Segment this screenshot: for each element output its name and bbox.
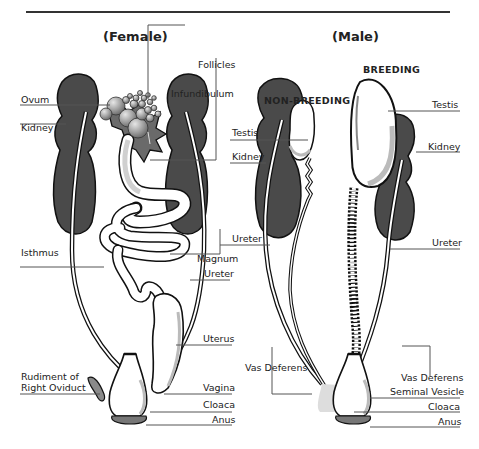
- label-rudiment-line2: Right Oviduct: [21, 382, 86, 393]
- label-b-vas-deferens: Vas Deferens: [401, 372, 463, 383]
- female-anus: [112, 416, 147, 424]
- label-nb-vas-deferens: Vas Deferens: [245, 362, 307, 373]
- label-b-testis: Testis: [432, 99, 458, 110]
- label-ovum: Ovum: [21, 94, 49, 105]
- label-nb-kidney: Kidney: [232, 151, 264, 162]
- label-magnum: Magnum: [197, 253, 238, 264]
- label-female-cloaca: Cloaca: [203, 399, 235, 410]
- label-female-ureter: Ureter: [204, 268, 234, 279]
- female-title: (Female): [103, 29, 168, 44]
- non-breeding-heading: NON-BREEDING: [264, 95, 350, 106]
- breeding-heading: BREEDING: [363, 64, 420, 75]
- rudiment-right-oviduct: [88, 377, 105, 401]
- female-left-kidney: [54, 74, 99, 234]
- label-b-kidney: Kidney: [428, 141, 460, 152]
- label-seminal-vesicle: Seminal Vesicle: [390, 386, 464, 397]
- male-b-testis: [351, 79, 396, 187]
- label-female-anus: Anus: [212, 414, 236, 425]
- label-infundibulum: Infundibulum: [171, 88, 234, 99]
- label-male-cloaca: Cloaca: [428, 401, 460, 412]
- male-anus: [336, 416, 371, 424]
- label-isthmus: Isthmus: [21, 247, 59, 258]
- label-male-anus: Anus: [438, 416, 462, 427]
- label-female-kidney: Kidney: [21, 122, 53, 133]
- male-title: (Male): [332, 29, 379, 44]
- label-follicles: Follicles: [198, 59, 236, 70]
- label-nb-ureter: Ureter: [232, 233, 262, 244]
- label-uterus: Uterus: [203, 333, 234, 344]
- label-vagina: Vagina: [203, 382, 235, 393]
- label-nb-testis: Testis: [232, 127, 258, 138]
- label-b-ureter: Ureter: [432, 237, 462, 248]
- label-rudiment-line1: Rudiment of: [21, 371, 79, 382]
